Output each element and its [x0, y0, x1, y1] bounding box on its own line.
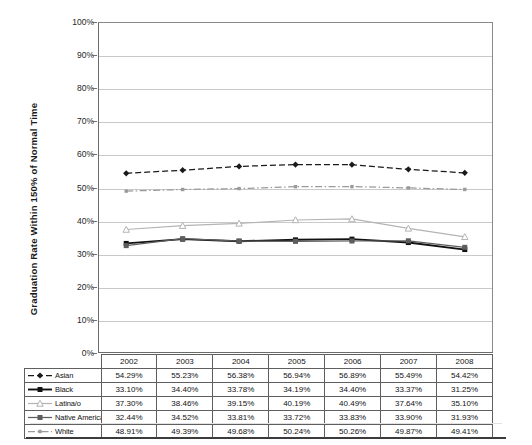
- y-tick-label: 50%: [54, 183, 94, 192]
- data-point: [407, 186, 410, 189]
- y-tick-label: 60%: [54, 150, 94, 159]
- data-point: [350, 185, 353, 188]
- data-point: [236, 163, 242, 169]
- y-tick-mark: [92, 221, 97, 222]
- legend-item-label: Latina/o: [55, 399, 81, 408]
- table-cell: 34.40%: [325, 383, 381, 397]
- table-column-header-2005: 2005: [269, 355, 325, 369]
- y-tick-mark: [92, 254, 97, 255]
- data-point: [124, 243, 129, 248]
- legend-item-black: Black: [25, 383, 102, 397]
- series-latina-o: [123, 216, 468, 240]
- legend-item-latina-o: Latina/o: [25, 397, 102, 411]
- legend-item-label: White: [55, 427, 74, 436]
- table-cell: 40.49%: [325, 397, 381, 411]
- data-point: [180, 236, 185, 241]
- table-cell: 56.89%: [325, 369, 381, 383]
- table-header-row: 2002200320042005200620072008: [25, 355, 493, 369]
- data-point: [180, 167, 186, 173]
- chart-plot-area: [98, 22, 493, 353]
- data-point: [123, 170, 129, 176]
- series-white: [125, 185, 467, 193]
- table-column-header-2004: 2004: [213, 355, 269, 369]
- table-cell: 39.15%: [213, 397, 269, 411]
- data-point: [125, 189, 128, 192]
- y-axis-tick-labels: 100%90%80%70%60%50%40%30%20%10%0%: [50, 22, 94, 353]
- chart-series-layer: [98, 22, 493, 353]
- data-point: [349, 239, 354, 244]
- y-tick-label: 30%: [54, 249, 94, 258]
- y-tick-mark: [92, 121, 97, 122]
- table-cell: 37.64%: [381, 397, 437, 411]
- data-point: [181, 188, 184, 191]
- y-tick-mark: [92, 320, 97, 321]
- table-cell: 56.94%: [269, 369, 325, 383]
- faint-divider: [30, 423, 502, 424]
- table-row: Asian54.29%55.23%56.38%56.94%56.89%55.49…: [25, 369, 493, 383]
- y-tick-mark: [92, 188, 97, 189]
- table-corner-cell: [25, 355, 102, 369]
- table-column-header-2002: 2002: [101, 355, 157, 369]
- y-tick-label: 70%: [54, 117, 94, 126]
- table-cell: 31.25%: [437, 383, 493, 397]
- table-cell: 34.40%: [157, 383, 213, 397]
- table-row: Latina/o37.30%38.46%39.15%40.19%40.49%37…: [25, 397, 493, 411]
- table-cell: 33.78%: [213, 383, 269, 397]
- legend-item-label: Black: [55, 385, 73, 394]
- data-table: 2002200320042005200620072008 Asian54.29%…: [24, 354, 493, 439]
- y-tick-mark: [92, 22, 97, 23]
- y-tick-label: 80%: [54, 84, 94, 93]
- table-column-header-2003: 2003: [157, 355, 213, 369]
- legend-swatch-latina-o: [27, 398, 53, 409]
- legend-swatch-native-american: [27, 412, 53, 423]
- table-cell: 40.19%: [269, 397, 325, 411]
- bottom-divider-rule: [26, 437, 506, 439]
- data-point: [463, 188, 466, 191]
- y-axis-title: Graduation Rate Within 150% of Normal Ti…: [22, 43, 44, 375]
- table-cell: 38.46%: [157, 397, 213, 411]
- table-column-header-2006: 2006: [325, 355, 381, 369]
- table-column-header-2007: 2007: [381, 355, 437, 369]
- series-asian: [123, 161, 468, 176]
- legend-swatch-white: [27, 426, 53, 437]
- chart-screenshot: { "chart_data": { "type": "line", "title…: [0, 0, 532, 445]
- data-point: [349, 162, 355, 168]
- table-cell: 54.29%: [101, 369, 157, 383]
- table-cell: 55.49%: [381, 369, 437, 383]
- data-point: [462, 245, 467, 250]
- y-tick-mark: [92, 353, 97, 354]
- data-point: [405, 166, 411, 172]
- y-tick-label: 90%: [54, 51, 94, 60]
- y-tick-label: 20%: [54, 283, 94, 292]
- legend-item-label: Asian: [55, 371, 73, 380]
- legend-swatch-asian: [27, 370, 53, 381]
- table-cell: 33.37%: [381, 383, 437, 397]
- table-cell: 37.30%: [101, 397, 157, 411]
- table-cell: 56.38%: [213, 369, 269, 383]
- data-point: [237, 239, 242, 244]
- data-point: [294, 185, 297, 188]
- legend-item-inner: Latina/o: [27, 397, 101, 410]
- y-tick-mark: [92, 55, 97, 56]
- data-point: [293, 239, 298, 244]
- y-tick-label: 40%: [54, 216, 94, 225]
- data-point: [292, 161, 298, 167]
- legend-item-asian: Asian: [25, 369, 102, 383]
- legend-item-label: Native American: [55, 413, 101, 422]
- y-tick-label: 10%: [54, 316, 94, 325]
- data-point: [406, 238, 411, 243]
- legend-swatch-black: [27, 384, 53, 395]
- data-point: [237, 187, 240, 190]
- y-tick-mark: [92, 287, 97, 288]
- table-cell: 33.10%: [101, 383, 157, 397]
- y-tick-mark: [92, 154, 97, 155]
- table-body: Asian54.29%55.23%56.38%56.94%56.89%55.49…: [25, 369, 493, 439]
- legend-item-inner: Asian: [27, 369, 101, 382]
- table-cell: 55.23%: [157, 369, 213, 383]
- y-tick-mark: [92, 88, 97, 89]
- data-point: [462, 170, 468, 176]
- table-cell: 54.42%: [437, 369, 493, 383]
- table-cell: 35.10%: [437, 397, 493, 411]
- table-row: Black33.10%34.40%33.78%34.19%34.40%33.37…: [25, 383, 493, 397]
- y-tick-label: 100%: [54, 18, 94, 27]
